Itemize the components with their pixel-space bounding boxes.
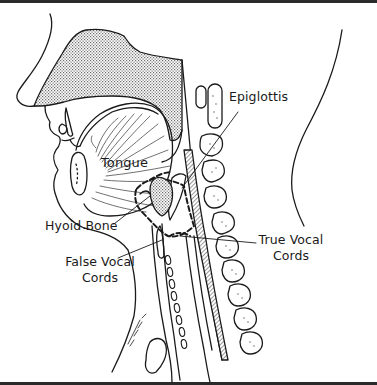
label-false-vocal-cords-line1: False Vocal: [60, 254, 140, 270]
neck-back-contour: [292, 30, 342, 226]
label-true-vocal-cords-line2: Cords: [255, 248, 327, 264]
label-hyoid-bone: Hyoid Bone: [45, 218, 118, 234]
diagram-frame: Epiglottis Tongue Hyoid Bone False Vocal…: [0, 0, 377, 385]
illustrator-signature: [128, 314, 146, 346]
hyoid-bone-leader-line: [114, 196, 150, 224]
larynx-anatomy-illustration: [0, 0, 377, 385]
label-epiglottis: Epiglottis: [229, 89, 288, 105]
label-true-vocal-cords-line1: True Vocal: [255, 232, 327, 248]
thyroid-gland: [145, 339, 166, 374]
label-false-vocal-cords-line2: Cords: [60, 270, 140, 286]
label-true-vocal-cords: True Vocal Cords: [255, 232, 327, 264]
prevertebral-tissue: [184, 150, 228, 360]
mandible: [71, 152, 88, 195]
nasal-cavity: [34, 29, 182, 140]
label-tongue: Tongue: [101, 155, 148, 171]
label-false-vocal-cords: False Vocal Cords: [60, 254, 140, 286]
true-vocal-cords-leader-line: [180, 236, 256, 243]
neck-front: [84, 228, 136, 372]
